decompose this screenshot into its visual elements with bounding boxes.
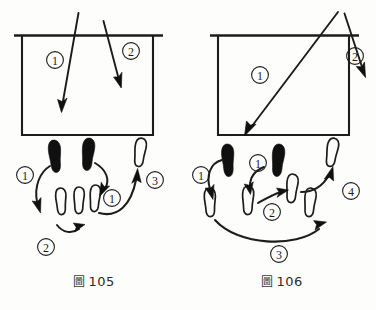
figure-105-caption-number: 105 <box>89 274 115 289</box>
step-label-1-right-text: 1 <box>109 192 115 206</box>
attack-arrow-1-shaft <box>63 13 79 104</box>
step-label-4-106: 4 <box>343 183 360 200</box>
step-3-shaft <box>99 180 136 214</box>
step-2-head <box>73 223 85 232</box>
attack-arrow-2-106 <box>345 14 366 78</box>
step-1-left-shaft <box>36 166 50 202</box>
room-label-1-text: 1 <box>52 54 58 68</box>
room-label-2-text: 2 <box>352 50 358 64</box>
step-label-2-text: 2 <box>269 206 275 220</box>
figure-105-panel: 1 2 <box>0 0 188 310</box>
attack-arrow-1-shaft <box>251 12 339 128</box>
footprint-outline-lower-c-105 <box>89 185 101 212</box>
step-label-2-text: 2 <box>43 241 49 255</box>
step-label-2-106: 2 <box>264 204 281 221</box>
figure-106-caption-number: 106 <box>277 274 303 289</box>
footprint-outline-right-mid-106 <box>286 174 299 203</box>
step-1-mid-head <box>244 182 253 195</box>
figure-105-caption: 圖105 <box>0 272 188 289</box>
figure-105-caption-word: 圖 <box>73 275 86 289</box>
footprint-outline-right-top-105 <box>133 138 147 168</box>
footprint-solid-left-105 <box>47 139 63 173</box>
step-arrow-3-105 <box>99 169 141 215</box>
step-label-1-mid-text: 1 <box>255 157 261 171</box>
step-4-shaft <box>301 175 329 192</box>
step-arrow-2-106 <box>258 188 289 203</box>
step-label-3-106: 3 <box>271 246 288 263</box>
room-label-1-106: 1 <box>252 67 269 84</box>
step-label-3-text: 3 <box>276 248 282 262</box>
illustration-page: 1 2 <box>0 0 376 310</box>
step-2-shaft <box>258 192 281 203</box>
step-label-3-105: 3 <box>147 172 164 189</box>
footprint-outline-right-top-106 <box>325 137 340 167</box>
room-outline-106 <box>210 36 359 136</box>
attack-arrow-1-105 <box>58 13 79 113</box>
footprint-solid-right-106 <box>271 144 286 177</box>
step-3-shaft <box>215 220 319 242</box>
step-label-1-left-105: 1 <box>17 167 34 184</box>
footprint-outline-lower-b-105 <box>74 187 84 214</box>
room-label-2-105: 2 <box>123 43 140 60</box>
figure-106-drawing: 1 2 <box>188 0 376 286</box>
step-label-3-text: 3 <box>152 174 158 188</box>
step-arrow-3-106 <box>215 220 327 242</box>
step-label-1-left-text: 1 <box>198 169 204 183</box>
attack-arrow-2-shaft <box>104 21 120 80</box>
step-label-1-left-text: 1 <box>22 169 28 183</box>
room-label-1-105: 1 <box>47 52 64 69</box>
step-label-1-left-106: 1 <box>193 167 210 184</box>
attack-arrow-2-105 <box>104 21 122 88</box>
step-arrow-2-105 <box>57 223 85 232</box>
footprint-solid-left-106 <box>221 144 236 177</box>
step-arrow-1-left-105 <box>32 166 50 213</box>
room-label-1-text: 1 <box>257 69 263 83</box>
figure-106-caption: 圖106 <box>188 272 376 289</box>
step-arrow-4-106 <box>301 167 334 193</box>
step-3-head <box>314 221 327 230</box>
figure-105-drawing: 1 2 <box>0 0 188 286</box>
figure-106-caption-word: 圖 <box>261 275 274 289</box>
room-outline-105 <box>14 36 163 136</box>
footprint-outline-lower-a-105 <box>55 188 67 215</box>
step-1-left-shaft <box>209 160 223 189</box>
step-4-head <box>324 167 333 182</box>
footprint-solid-right-105 <box>81 138 96 171</box>
step-label-1-mid-106: 1 <box>250 155 267 172</box>
figure-106-panel: 1 2 <box>188 0 376 310</box>
step-label-4-text: 4 <box>348 185 354 199</box>
room-label-2-text: 2 <box>128 45 134 59</box>
step-label-2-105: 2 <box>38 239 55 256</box>
step-label-1-right-105: 1 <box>104 190 121 207</box>
